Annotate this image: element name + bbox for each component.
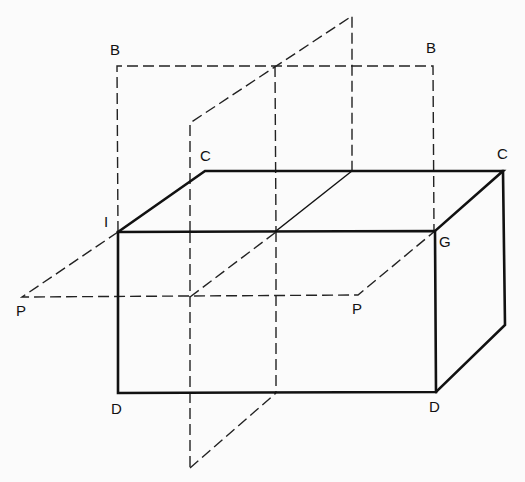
plane-b: [117, 66, 434, 232]
label-d-right: D: [429, 399, 440, 414]
label-c-left: C: [200, 148, 211, 163]
plane-c: [190, 16, 352, 468]
label-b-right: B: [426, 40, 436, 55]
label-p-left: P: [16, 303, 26, 318]
diagram-canvas: B B C C I G P P D D: [0, 0, 525, 482]
label-d-left: D: [111, 401, 122, 416]
plane-p: [22, 231, 435, 297]
label-i: I: [104, 214, 108, 229]
label-p-right: P: [352, 301, 362, 316]
box: [118, 171, 505, 393]
label-c-right: C: [497, 146, 508, 161]
label-g: G: [439, 234, 451, 249]
label-b-left: B: [110, 42, 120, 57]
